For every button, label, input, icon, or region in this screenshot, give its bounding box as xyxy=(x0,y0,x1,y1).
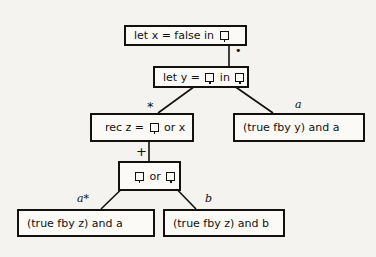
node-text: in xyxy=(220,71,230,84)
edge-label-n5-n6: a* xyxy=(77,192,89,205)
node-text: let x = false in xyxy=(134,29,214,42)
hole-icon xyxy=(135,172,144,181)
node-text: or xyxy=(150,170,161,183)
node-text: (true fby z) and b xyxy=(173,217,269,230)
node-text: let y = xyxy=(163,71,200,84)
node-text: rec z = xyxy=(105,121,144,134)
node-text: or x xyxy=(164,121,185,134)
node-true-fby-z-and-b: (true fby z) and b xyxy=(163,209,285,237)
node-rec-z: rec z = or x xyxy=(90,113,194,142)
edge-label-n3-n5: + xyxy=(136,144,147,159)
hole-icon xyxy=(205,73,214,82)
edge-label-n1-n2: • xyxy=(235,44,242,57)
node-true-fby-y: (true fby y) and a xyxy=(233,113,365,142)
edge-label-n2-n4: a xyxy=(295,98,302,111)
edge-label-n5-n7: b xyxy=(205,192,212,205)
node-let-x: let x = false in xyxy=(124,25,247,46)
node-let-y: let y = in xyxy=(153,66,249,88)
node-or: or xyxy=(118,161,181,191)
node-true-fby-z-and-a: (true fby z) and a xyxy=(17,209,155,237)
node-text: (true fby y) and a xyxy=(243,121,339,134)
hole-icon xyxy=(235,73,244,82)
node-text: (true fby z) and a xyxy=(27,217,123,230)
hole-icon xyxy=(220,31,229,40)
hole-icon xyxy=(150,123,159,132)
edge-label-n2-n3: * xyxy=(147,99,154,114)
hole-icon xyxy=(166,172,175,181)
